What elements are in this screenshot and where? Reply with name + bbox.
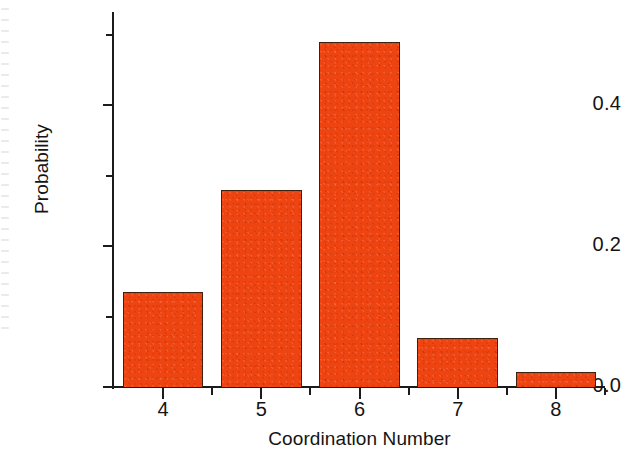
y-tick-major <box>103 245 114 247</box>
y-axis-title: Probability <box>31 69 53 269</box>
x-tick-label: 7 <box>428 398 488 421</box>
y-tick-minor <box>106 175 114 177</box>
y-tick-minor <box>106 316 114 318</box>
x-tick-minor <box>604 388 606 395</box>
x-tick-minor <box>309 388 311 395</box>
x-tick-minor <box>211 388 213 395</box>
y-tick-major <box>103 386 114 388</box>
bar-6 <box>319 42 400 387</box>
y-tick-major <box>103 104 114 106</box>
x-tick-label: 5 <box>231 398 291 421</box>
bar-5 <box>221 190 302 387</box>
x-tick-label: 6 <box>330 398 390 421</box>
x-tick-minor <box>506 388 508 395</box>
x-axis-title: Coordination Number <box>114 428 605 450</box>
x-tick-label: 4 <box>133 398 193 421</box>
x-tick-label: 8 <box>526 398 586 421</box>
bar-8 <box>516 372 597 388</box>
y-tick-minor <box>106 34 114 36</box>
bar-7 <box>417 338 498 387</box>
scan-artifact <box>0 8 9 438</box>
bar-4 <box>123 292 204 387</box>
plot-area <box>114 12 605 387</box>
x-tick-minor <box>408 388 410 395</box>
bar-chart-figure: 0.00.20.4 45678 Probability Coordination… <box>0 0 639 464</box>
